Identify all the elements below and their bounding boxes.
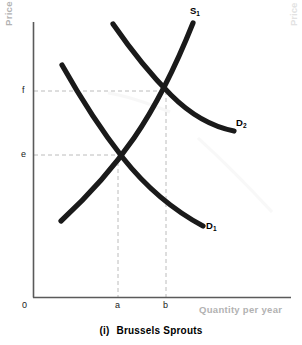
y-axis-title: Price <box>4 1 14 26</box>
demand-curve-d2-label-base: D <box>236 117 243 128</box>
demand-curve-label-d2: D2 <box>236 118 247 128</box>
demand-curve-d2-label-subscript: 2 <box>243 122 247 129</box>
supply-curve-label-subscript: 1 <box>196 10 200 17</box>
supply-curve-label-s1: S1 <box>190 6 200 16</box>
plot-canvas <box>0 0 302 345</box>
y-tick-label-e: e <box>21 150 26 159</box>
adjacent-panel-y-axis-title: Price <box>289 3 299 26</box>
x-axis-title: Quantity per year <box>199 305 282 315</box>
demand-curve-d1-label-base: D <box>206 220 213 231</box>
x-tick-label-a: a <box>115 301 120 310</box>
axis-lines <box>33 22 291 298</box>
x-tick-label-b: b <box>163 301 168 310</box>
y-tick-label-f: f <box>22 86 25 95</box>
figure-caption-title: Brussels Sprouts <box>117 325 203 336</box>
demand-curve-label-d1: D1 <box>206 221 217 231</box>
figure-caption-number: (i) <box>99 325 109 336</box>
demand-curve-d1-label-subscript: 1 <box>213 225 217 232</box>
demand-curve-d2 <box>113 24 234 131</box>
figure-caption: (i)Brussels Sprouts <box>0 325 302 336</box>
supply-demand-figure: Price Quantity per year Price f e 0 a b … <box>0 0 302 345</box>
origin-label: 0 <box>22 301 27 310</box>
supply-curve-s1 <box>61 23 193 221</box>
